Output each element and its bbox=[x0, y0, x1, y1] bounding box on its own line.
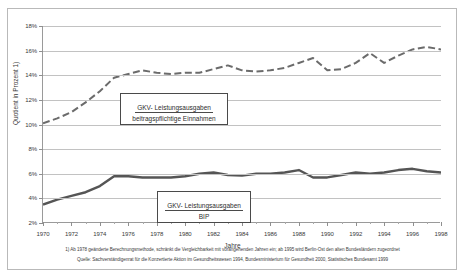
gridline bbox=[43, 174, 441, 175]
series-line-0 bbox=[43, 47, 441, 123]
gridline bbox=[43, 26, 441, 27]
y-tick-label: 2% bbox=[29, 220, 37, 226]
y-tick-label: 12% bbox=[25, 97, 37, 103]
x-tick-minor bbox=[57, 222, 58, 224]
y-tick-mark bbox=[39, 198, 43, 199]
x-tick-mark bbox=[270, 222, 271, 226]
y-tick-label: 6% bbox=[29, 171, 37, 177]
x-tick-label: 1980 bbox=[179, 231, 192, 237]
x-tick-mark bbox=[327, 222, 328, 226]
legend-upper-denominator: beitragspflichtige Einnahmen bbox=[127, 114, 221, 122]
x-tick-label: 1982 bbox=[207, 231, 220, 237]
x-tick-label: 1978 bbox=[150, 231, 163, 237]
y-tick-label: 8% bbox=[29, 146, 37, 152]
y-tick-mark bbox=[39, 125, 43, 126]
x-tick-mark bbox=[413, 222, 414, 226]
y-tick-label: 10% bbox=[25, 122, 37, 128]
x-tick-minor bbox=[256, 222, 257, 224]
y-tick-mark bbox=[39, 51, 43, 52]
y-tick-mark bbox=[39, 100, 43, 101]
y-tick-label: 4% bbox=[29, 195, 37, 201]
gridline bbox=[43, 75, 441, 76]
x-tick-label: 1970 bbox=[37, 231, 50, 237]
legend-lower-ratio: GKV- Leistungsausgaben BIP bbox=[157, 191, 251, 223]
gridline bbox=[43, 100, 441, 101]
x-tick-mark bbox=[128, 222, 129, 226]
chart-figure: Quotient in Prozent 1) 2%4%6%8%10%12%14%… bbox=[0, 0, 465, 280]
x-tick-label: 1984 bbox=[236, 231, 249, 237]
x-tick-label: 1974 bbox=[93, 231, 106, 237]
x-tick-label: 1986 bbox=[264, 231, 277, 237]
x-tick-label: 1996 bbox=[406, 231, 419, 237]
x-tick-minor bbox=[86, 222, 87, 224]
x-tick-label: 1994 bbox=[378, 231, 391, 237]
x-tick-mark bbox=[441, 222, 442, 226]
x-tick-mark bbox=[71, 222, 72, 226]
footnote-method-note: 1) Ab 1978 geänderte Berechnungsmethode,… bbox=[0, 247, 465, 252]
legend-lower-denominator: BIP bbox=[164, 212, 244, 220]
y-tick-mark bbox=[39, 174, 43, 175]
x-tick-minor bbox=[427, 222, 428, 224]
x-tick-minor bbox=[342, 222, 343, 224]
x-tick-label: 1998 bbox=[435, 231, 448, 237]
x-tick-mark bbox=[100, 222, 101, 226]
x-tick-mark bbox=[384, 222, 385, 226]
x-tick-mark bbox=[43, 222, 44, 226]
x-tick-minor bbox=[143, 222, 144, 224]
y-tick-mark bbox=[39, 75, 43, 76]
legend-lower-numerator: GKV- Leistungsausgaben bbox=[165, 202, 243, 211]
x-tick-label: 1992 bbox=[349, 231, 362, 237]
x-tick-mark bbox=[299, 222, 300, 226]
footnote-source: Quelle: Sachverständigenrat für die Konz… bbox=[0, 257, 465, 262]
x-tick-minor bbox=[313, 222, 314, 224]
x-tick-label: 1988 bbox=[292, 231, 305, 237]
y-axis-title: Quotient in Prozent 1) bbox=[12, 62, 19, 125]
x-tick-minor bbox=[114, 222, 115, 224]
x-tick-minor bbox=[285, 222, 286, 224]
x-tick-label: 1976 bbox=[122, 231, 135, 237]
y-tick-label: 14% bbox=[25, 72, 37, 78]
x-tick-minor bbox=[370, 222, 371, 224]
x-tick-minor bbox=[398, 222, 399, 224]
gridline bbox=[43, 149, 441, 150]
x-tick-label: 1972 bbox=[65, 231, 78, 237]
y-tick-mark bbox=[39, 149, 43, 150]
x-tick-mark bbox=[356, 222, 357, 226]
x-tick-label: 1990 bbox=[321, 231, 334, 237]
legend-upper-ratio: GKV- Leistungsausgaben beitragspflichtig… bbox=[120, 93, 228, 125]
y-tick-mark bbox=[39, 26, 43, 27]
legend-upper-numerator: GKV- Leistungsausgaben bbox=[135, 104, 213, 113]
gridline bbox=[43, 51, 441, 52]
gridline bbox=[43, 125, 441, 126]
y-tick-label: 18% bbox=[25, 23, 37, 29]
y-tick-label: 16% bbox=[25, 48, 37, 54]
